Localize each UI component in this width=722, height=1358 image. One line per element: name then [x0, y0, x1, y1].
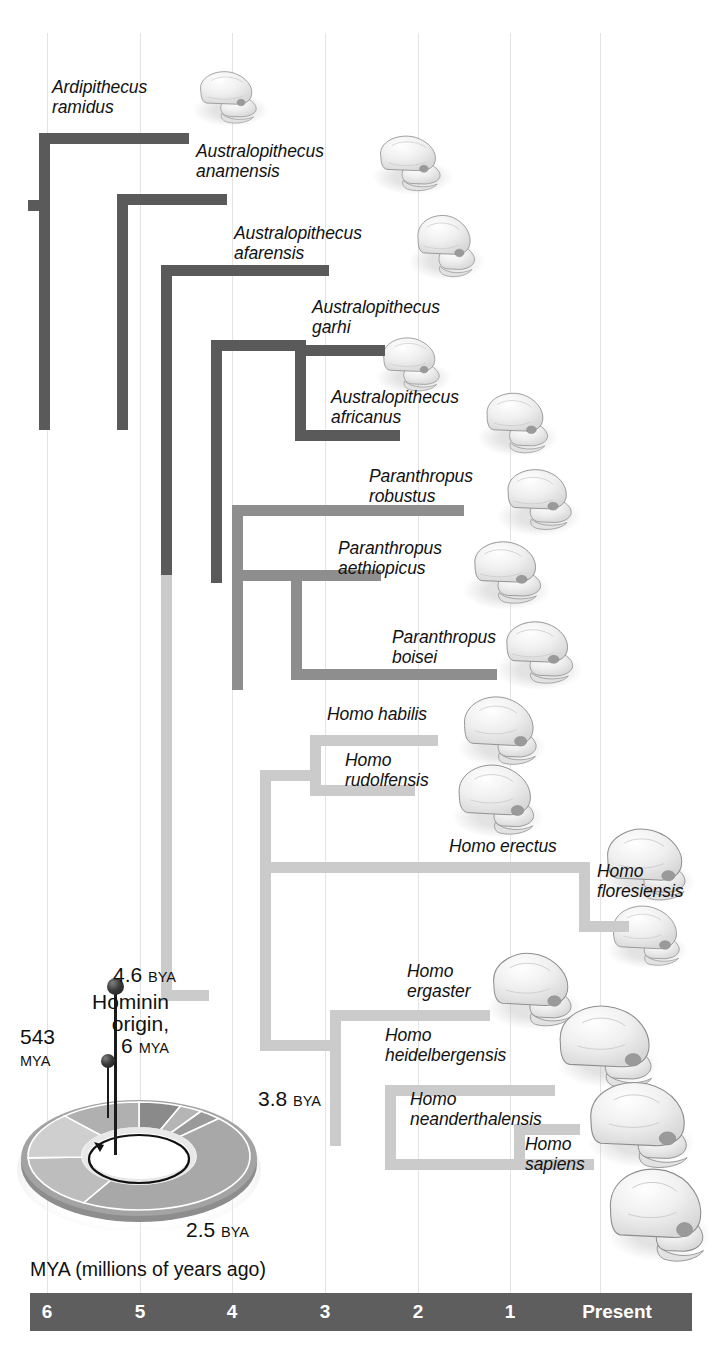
branch-segment — [291, 570, 302, 680]
branch-segment — [385, 1085, 396, 1170]
species-label-homo-ergaster: Homo ergaster — [407, 962, 470, 1001]
life-origin-label: 3.8 BYA — [258, 1088, 321, 1112]
branch-segment — [295, 430, 400, 441]
species-label-ardipithecus-ramidus: Ardipithecus ramidus — [52, 78, 147, 117]
branch-segment — [579, 921, 629, 932]
oxygen-label: 2.5 BYA — [186, 1219, 249, 1243]
skull-icon-homo-rudolfensis — [444, 758, 548, 842]
branch-segment — [260, 862, 325, 873]
skull-icon-australopithecus-anamensis — [365, 128, 457, 198]
branch-segment — [39, 133, 50, 430]
branch-segment — [385, 1159, 525, 1170]
gridline-6 — [600, 33, 601, 1293]
branch-segment — [260, 1040, 335, 1051]
species-label-paranthropus-robustus: Paranthropus robustus — [369, 467, 473, 506]
skull-icon-paranthropus-aethiopicus — [455, 534, 555, 614]
branch-segment — [232, 505, 243, 690]
branch-segment — [291, 669, 497, 680]
skull-icon-homo-neanderthalensis — [578, 1076, 700, 1172]
axis-tick-present: Present — [562, 1293, 672, 1331]
branch-segment — [330, 1010, 341, 1146]
species-label-australopithecus-afarensis: Australopithecus afarensis — [234, 224, 362, 263]
species-label-homo-habilis: Homo habilis — [327, 705, 427, 725]
earth-origin-label: 4.6 BYA — [113, 964, 176, 988]
branch-segment — [117, 194, 128, 430]
species-label-homo-rudolfensis: Homo rudolfensis — [345, 751, 429, 790]
axis-tick-1: 1 — [455, 1293, 565, 1331]
skull-icon-homo-heidelbergensis — [548, 1000, 664, 1092]
skull-icon-homo-ergaster — [478, 946, 586, 1034]
hominin-origin-pin-stem — [107, 1060, 109, 1118]
skull-icon-paranthropus-robustus — [489, 462, 585, 540]
figure-canvas: Ardipithecus ramidusAustralopithecus ana… — [0, 0, 722, 1358]
branch-segment — [161, 575, 172, 1000]
skull-icon-australopithecus-africanus — [470, 386, 562, 460]
branch-segment — [310, 735, 438, 746]
branch-segment — [232, 505, 464, 516]
hominin-origin-label: Hominin origin, — [57, 991, 169, 1035]
branch-segment — [320, 862, 590, 873]
species-label-homo-neanderthalensis: Homo neanderthalensis — [410, 1090, 542, 1129]
species-label-australopithecus-garhi: Australopithecus garhi — [312, 298, 440, 337]
branch-segment — [161, 265, 172, 583]
species-label-homo-floresiensis: Homo floresiensis — [597, 862, 683, 901]
species-label-homo-sapiens: Homo sapiens — [525, 1135, 585, 1174]
branch-segment — [260, 770, 271, 1040]
hominin-origin-value: 6 MYA — [60, 1035, 169, 1059]
skull-icon-homo-habilis — [450, 690, 550, 772]
branch-segment — [330, 1010, 490, 1021]
species-label-australopithecus-africanus: Australopithecus africanus — [331, 388, 459, 427]
species-label-australopithecus-anamensis: Australopithecus anamensis — [196, 142, 324, 181]
branch-segment — [295, 345, 306, 441]
branch-segment — [161, 265, 329, 276]
species-label-paranthropus-boisei: Paranthropus boisei — [392, 628, 496, 667]
cambrian-label: 543MYA — [20, 1026, 55, 1072]
species-label-paranthropus-aethiopicus: Paranthropus aethiopicus — [338, 539, 442, 578]
skull-icon-homo-sapiens — [598, 1162, 716, 1266]
branch-segment — [39, 133, 189, 144]
species-label-homo-heidelbergensis: Homo heidelbergensis — [385, 1026, 506, 1065]
axis-caption: MYA (millions of years ago) — [30, 1258, 266, 1281]
gridline-3 — [325, 33, 326, 1293]
time-axis-bar: 654321Present — [30, 1293, 692, 1331]
branch-segment — [295, 345, 385, 356]
branch-segment — [211, 340, 306, 351]
skull-icon-homo-floresiensis — [600, 900, 692, 972]
branch-segment — [211, 340, 222, 583]
skull-icon-paranthropus-boisei — [487, 614, 587, 694]
species-label-homo-erectus: Homo erectus — [449, 837, 557, 857]
skull-icon-ardipithecus-ramidus — [186, 64, 272, 130]
branch-segment — [117, 194, 227, 205]
skull-icon-australopithecus-afarensis — [402, 208, 488, 284]
